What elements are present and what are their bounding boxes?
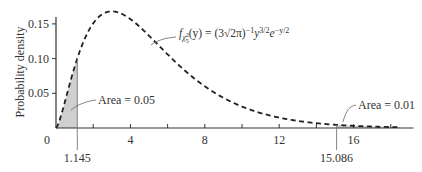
chi-square-chart: 0.050.100.15 0481216 1.14515.086 Probabi… bbox=[0, 0, 422, 172]
x-tick-label: 16 bbox=[348, 133, 360, 147]
left-area-label: Area = 0.05 bbox=[98, 93, 155, 107]
formula-arg: (y) = (3√2π) bbox=[189, 27, 246, 40]
x-tick-label: 4 bbox=[127, 133, 133, 147]
y-tick-label: 0.10 bbox=[28, 52, 49, 66]
right-area-label: Area = 0.01 bbox=[358, 98, 415, 112]
y-axis-label: Probability density bbox=[13, 27, 27, 118]
y-tick-label: 0.05 bbox=[28, 86, 49, 100]
x-tick-label: 8 bbox=[202, 133, 208, 147]
formula-exp2: 3/2 bbox=[259, 26, 269, 35]
x-tick-label: 12 bbox=[273, 133, 285, 147]
formula-exp1: −1 bbox=[246, 26, 255, 35]
x-tick-label: 0 bbox=[44, 133, 50, 147]
right-area-leader-line bbox=[343, 105, 356, 122]
y-ticks: 0.050.100.15 bbox=[28, 17, 56, 100]
critical-value-label: 15.086 bbox=[320, 151, 353, 165]
critical-value-label: 1.145 bbox=[64, 151, 91, 165]
y-tick-label: 0.15 bbox=[28, 17, 49, 31]
formula-exp3: −y/2 bbox=[275, 26, 290, 35]
formula-label: fχ25(y) = (3√2π)−1y3/2e−y/2 bbox=[179, 26, 289, 44]
critical-value-lines: 1.14515.086 bbox=[64, 58, 353, 165]
